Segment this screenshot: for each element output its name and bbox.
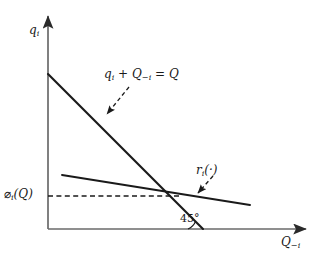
reaction-argument: (·) [204,163,217,177]
phi-symbol: ⌀ [4,187,11,201]
equation-equals: = [151,67,169,81]
equation-Q-other: Q [132,67,142,81]
equation-plus: + [114,67,132,81]
y-axis-label-subscript: i [37,28,40,38]
y-axis-label-base: q [29,23,37,37]
equation-Q-total: Q [169,67,179,81]
iso-output-callout-arrow [107,87,129,114]
iso-output-line [48,74,203,229]
x-axis-label-subscript: −i [291,240,300,250]
phi-level-label: ⌀i(Q) [4,188,33,201]
equation-Q-other-subscript: −i [142,72,151,82]
phi-argument: (Q) [14,187,33,201]
angle-label: 45° [180,213,200,224]
reaction-function-line [62,175,250,205]
y-axis-label: qi [29,24,39,37]
cournot-diagram: qi Q−i qi + Q−i = Q ri(·) ⌀i(Q) 45° [0,0,326,256]
iso-output-equation-label: qi + Q−i = Q [104,68,179,81]
diagram-canvas [0,0,326,256]
reaction-callout-arrow [198,176,213,193]
reaction-function-label: ri(·) [196,164,218,177]
equation-q: q [104,67,112,81]
x-axis-label-base: Q [281,235,291,249]
x-axis-label: Q−i [281,236,300,249]
